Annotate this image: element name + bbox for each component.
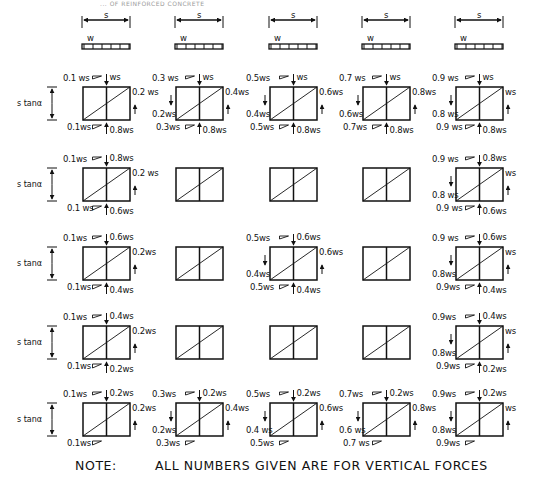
col5-row5-top-left-force: 0.9ws bbox=[432, 390, 456, 399]
span-label: s bbox=[197, 11, 201, 20]
col5-row5-top-right-force: 0.2ws bbox=[483, 389, 507, 398]
col5-row5-bottom-left-force: 0.9ws bbox=[436, 439, 460, 448]
force-triangle-icon bbox=[466, 315, 475, 318]
col4-row5-top-left-force: 0.7ws bbox=[339, 390, 363, 399]
col4-row5-top-right-force: 0.2ws bbox=[390, 389, 414, 398]
force-triangle-icon bbox=[93, 157, 102, 160]
col2-row1-bottom-left-force: 0.3ws bbox=[156, 123, 180, 132]
col3-row5-right-force: 0.6ws bbox=[319, 404, 343, 413]
span-label: s bbox=[291, 11, 295, 20]
force-triangle-icon bbox=[373, 441, 382, 445]
col3-row1-bottom-right-force: 0.8ws bbox=[297, 126, 321, 135]
force-triangle-icon bbox=[93, 441, 102, 445]
col3-row1-top-right-force: ws bbox=[297, 73, 308, 82]
col3-row1-right-force: 0.6ws bbox=[319, 88, 343, 97]
force-triangle-icon bbox=[280, 236, 289, 239]
col4-row5-left-force: 0.6 ws bbox=[339, 426, 365, 435]
col1-row3-bottom-left-force: 0.1ws bbox=[67, 283, 91, 292]
force-triangle-icon bbox=[93, 315, 102, 318]
col5-row5-left-force: 0.8ws bbox=[432, 426, 456, 435]
col5-row4-bottom-right-force: 0.2ws bbox=[483, 365, 507, 374]
force-triangle-icon bbox=[466, 236, 475, 239]
col4-row1-top-left-force: 0.7 ws bbox=[339, 74, 365, 83]
force-triangle-icon bbox=[186, 392, 195, 395]
row-height-label-2: s tanα bbox=[17, 180, 42, 189]
col3-row5-bottom-left-force: 0.5ws bbox=[250, 439, 274, 448]
col5-row4-left-force: 0.8ws bbox=[432, 349, 456, 358]
col4-row1-left-force: 0.6ws bbox=[339, 110, 363, 119]
force-triangle-icon bbox=[280, 441, 289, 445]
col5-row3-top-right-force: 0.6ws bbox=[483, 233, 507, 242]
col1-row2-bottom-left-force: 0.1 ws bbox=[67, 204, 93, 213]
force-triangle-icon bbox=[93, 364, 102, 368]
beam bbox=[269, 44, 317, 49]
force-triangle-icon bbox=[280, 76, 289, 79]
col2-row5-left-force: 0.2ws bbox=[152, 426, 176, 435]
force-triangle-icon bbox=[280, 285, 289, 289]
col3-row1-top-left-force: 0.5ws bbox=[246, 74, 270, 83]
load-label: w bbox=[460, 34, 467, 43]
col3-row5-top-right-force: 0.2ws bbox=[297, 389, 321, 398]
col2-row5-top-left-force: 0.3ws bbox=[152, 390, 176, 399]
row-height-label-3: s tanα bbox=[17, 259, 42, 268]
beam bbox=[82, 44, 130, 49]
col1-row1-top-left-force: 0.1 ws bbox=[63, 74, 89, 83]
beam bbox=[455, 44, 503, 49]
col5-row3-top-left-force: 0.9 ws bbox=[432, 234, 458, 243]
force-triangle-icon bbox=[93, 76, 102, 79]
col1-row1-bottom-left-force: 0.1ws bbox=[67, 123, 91, 132]
col5-row4-top-right-force: 0.4ws bbox=[483, 312, 507, 321]
col1-row2-right-force: 0.2 ws bbox=[132, 169, 158, 178]
col1-row3-top-right-force: 0.6ws bbox=[110, 233, 134, 242]
force-triangle-icon bbox=[466, 285, 475, 289]
load-label: w bbox=[87, 34, 94, 43]
col1-row4-top-right-force: 0.4ws bbox=[110, 312, 134, 321]
col4-row5-right-force: 0.8ws bbox=[412, 404, 436, 413]
col5-row2-bottom-right-force: 0.6ws bbox=[483, 207, 507, 216]
col5-row3-left-force: 0.8ws bbox=[432, 270, 456, 279]
col4-row1-top-right-force: ws bbox=[390, 73, 401, 82]
note-prefix: NOTE: bbox=[75, 458, 117, 473]
col3-row3-bottom-right-force: 0.4ws bbox=[297, 286, 321, 295]
col1-row5-right-force: 0.2ws bbox=[132, 404, 156, 413]
row-height-label-1: s tanα bbox=[17, 99, 42, 108]
col4-row1-right-force: 0.8ws bbox=[412, 88, 436, 97]
col1-row5-top-right-force: 0.2ws bbox=[110, 389, 134, 398]
col5-row5-right-force: ws bbox=[505, 404, 516, 413]
force-triangle-icon bbox=[466, 157, 475, 160]
force-triangle-icon bbox=[93, 206, 102, 210]
force-triangle-icon bbox=[466, 441, 475, 445]
force-triangle-icon bbox=[93, 236, 102, 239]
col5-row4-bottom-left-force: 0.9ws bbox=[436, 362, 460, 371]
col2-row1-top-right-force: ws bbox=[203, 73, 214, 82]
col5-row1-top-left-force: 0.9 ws bbox=[432, 74, 458, 83]
col5-row2-top-left-force: 0.9 ws bbox=[432, 155, 458, 164]
beam bbox=[362, 44, 410, 49]
col4-row1-bottom-right-force: 0.8ws bbox=[390, 126, 414, 135]
load-label: w bbox=[180, 34, 187, 43]
col1-row4-right-force: 0.2ws bbox=[132, 327, 156, 336]
col2-row1-left-force: 0.2ws bbox=[152, 110, 176, 119]
force-triangle-icon bbox=[186, 76, 195, 79]
col3-row1-left-force: 0.4ws bbox=[246, 110, 270, 119]
col1-row3-top-left-force: 0.1ws bbox=[63, 234, 87, 243]
col5-row1-bottom-left-force: 0.9 ws bbox=[436, 123, 462, 132]
col2-row5-bottom-left-force: 0.3ws bbox=[156, 439, 180, 448]
col5-row3-bottom-right-force: 0.4ws bbox=[483, 286, 507, 295]
col1-row2-top-right-force: 0.8ws bbox=[110, 154, 134, 163]
col3-row1-bottom-left-force: 0.5ws bbox=[250, 123, 274, 132]
footnote: NOTE:ALL NUMBERS GIVEN ARE FOR VERTICAL … bbox=[75, 458, 488, 473]
col5-row2-left-force: 0.8 ws bbox=[432, 191, 458, 200]
col1-row4-bottom-right-force: 0.2ws bbox=[110, 365, 134, 374]
col5-row1-top-right-force: ws bbox=[483, 73, 494, 82]
beam-loads bbox=[82, 16, 503, 49]
col3-row3-top-right-force: 0.6ws bbox=[297, 233, 321, 242]
col5-row1-right-force: ws bbox=[505, 88, 516, 97]
force-triangle-icon bbox=[466, 392, 475, 395]
col5-row2-bottom-left-force: 0.9 ws bbox=[436, 204, 462, 213]
height-dimensions bbox=[47, 87, 57, 436]
force-triangle-icon bbox=[186, 441, 195, 445]
col5-row4-top-left-force: 0.9ws bbox=[432, 313, 456, 322]
force-triangle-icon bbox=[373, 76, 382, 79]
col5-row2-right-force: ws bbox=[505, 169, 516, 178]
